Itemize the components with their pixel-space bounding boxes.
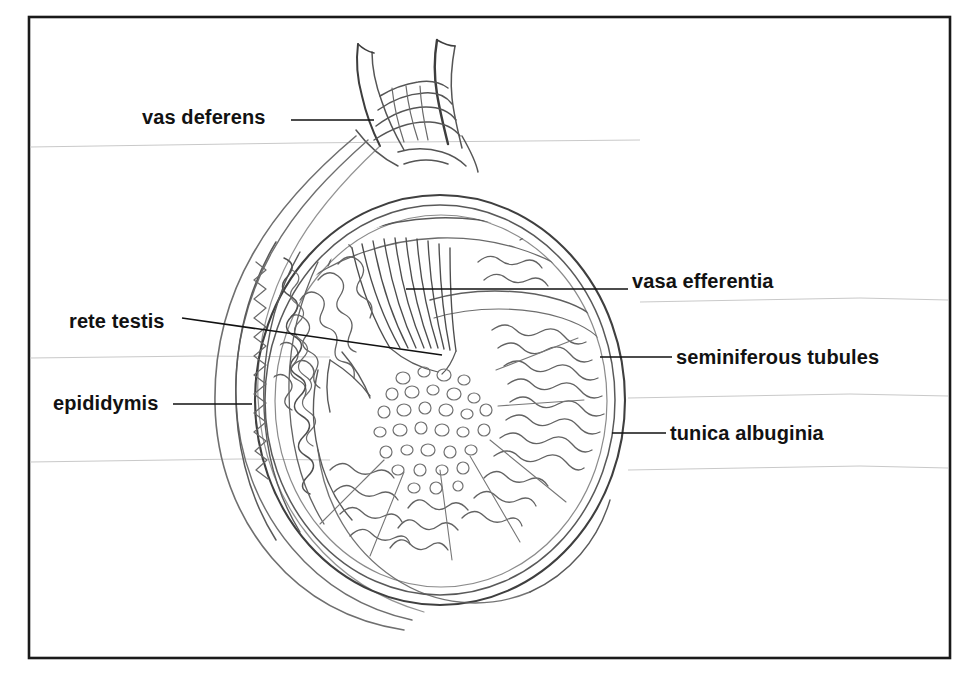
- testis-drawing: [215, 40, 625, 630]
- leader-lines: [173, 120, 672, 433]
- scan-artifact-lines: [30, 140, 948, 470]
- label-epididymis: epididymis: [53, 392, 158, 415]
- upper-left-tubules: [270, 238, 372, 410]
- figure-container: vas deferens vasa efferentia rete testis…: [0, 0, 967, 678]
- label-rete-testis: rete testis: [69, 310, 165, 333]
- vasa-efferentia: [352, 238, 456, 374]
- testis-diagram-svg: [0, 0, 967, 678]
- label-vas-deferens: vas deferens: [142, 106, 266, 129]
- label-tunica-albuginia: tunica albuginia: [670, 422, 824, 445]
- lobule-boundary: [318, 450, 610, 603]
- label-seminiferous-tubules: seminiferous tubules: [676, 346, 879, 369]
- label-vasa-efferentia: vasa efferentia: [632, 270, 774, 293]
- epididymis: [236, 242, 324, 540]
- mediastinum-testis: [290, 218, 606, 348]
